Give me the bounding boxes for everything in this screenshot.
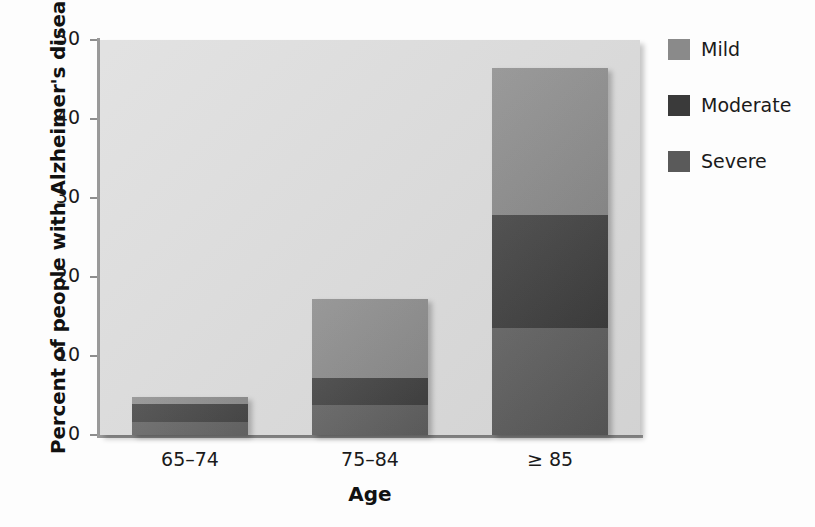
bar-segment-mild (312, 299, 428, 378)
y-tick-label: 0 (40, 422, 80, 444)
legend-swatch-icon (668, 95, 690, 116)
bar-2 (312, 299, 428, 435)
legend-label: Severe (701, 150, 767, 172)
legend-swatch-icon (668, 39, 690, 60)
y-tick-label: 20 (40, 264, 80, 286)
plot-area (100, 40, 640, 435)
bar-segment-mild (132, 397, 248, 404)
x-tick-label: 75–84 (300, 448, 440, 470)
bar-segment-moderate (132, 404, 248, 422)
x-tick-label: ≥ 85 (480, 448, 620, 470)
x-tick-label: 65–74 (120, 448, 260, 470)
bar-segment-severe (492, 328, 608, 435)
legend-item-severe: Severe (668, 150, 791, 172)
bar-3 (492, 68, 608, 435)
y-tick-label: 40 (40, 106, 80, 128)
bar-segment-moderate (312, 378, 428, 405)
x-axis-line (97, 435, 643, 438)
bar-segment-moderate (492, 215, 608, 328)
legend-label: Mild (701, 38, 740, 60)
legend-item-moderate: Moderate (668, 94, 791, 116)
y-tick-label: 10 (40, 343, 80, 365)
bar-segment-mild (492, 68, 608, 216)
bar-1 (132, 397, 248, 435)
legend-label: Moderate (701, 94, 791, 116)
bar-segment-severe (312, 405, 428, 435)
bar-segment-severe (132, 422, 248, 435)
legend-swatch-icon (668, 151, 690, 172)
legend-item-mild: Mild (668, 38, 791, 60)
legend: MildModerateSevere (668, 38, 791, 206)
y-axis-title: Percent of people with Alzheimer's disea… (46, 34, 70, 454)
chart-figure: Percent of people with Alzheimer's disea… (0, 0, 815, 527)
x-axis-title: Age (100, 482, 640, 506)
y-tick-label: 30 (40, 185, 80, 207)
y-tick-label: 50 (40, 27, 80, 49)
